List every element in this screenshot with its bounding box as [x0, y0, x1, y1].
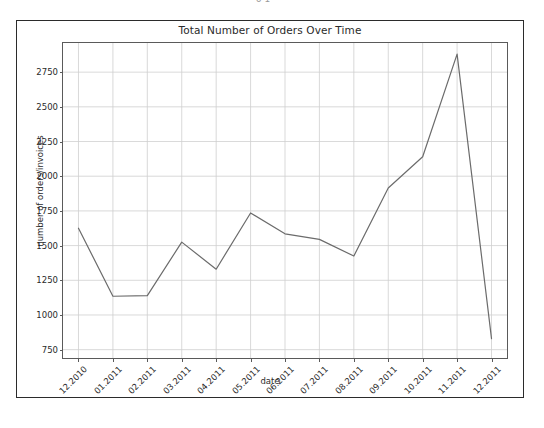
- x-tick-mark: [113, 358, 114, 362]
- x-tick-mark: [388, 358, 389, 362]
- y-tick-label: 2750: [36, 67, 58, 77]
- x-tick-mark: [182, 358, 183, 362]
- y-tick-mark: [60, 72, 64, 73]
- y-tick-mark: [60, 211, 64, 212]
- x-tick-mark: [147, 358, 148, 362]
- y-tick-mark: [60, 142, 64, 143]
- y-tick-label: 1750: [36, 206, 58, 216]
- plot-area: 75010001250150017502000225025002750 12.2…: [62, 42, 508, 359]
- x-tick-mark: [285, 358, 286, 362]
- x-tick-mark: [492, 358, 493, 362]
- x-axis-label: date: [17, 376, 523, 386]
- y-tick-mark: [60, 107, 64, 108]
- y-tick-label: 1000: [36, 310, 58, 320]
- x-tick-mark: [78, 358, 79, 362]
- line-chart-svg: [63, 43, 507, 358]
- top-clipped-text: 6 1: [243, 0, 283, 4]
- y-tick-label: 2500: [36, 102, 58, 112]
- y-tick-mark: [60, 315, 64, 316]
- y-tick-label: 750: [42, 345, 58, 355]
- y-tick-label: 1250: [36, 275, 58, 285]
- chart-title: Total Number of Orders Over Time: [17, 24, 523, 36]
- y-tick-mark: [60, 176, 64, 177]
- y-tick-label: 2000: [36, 171, 58, 181]
- x-tick-mark: [251, 358, 252, 362]
- gridlines: [63, 43, 507, 358]
- y-tick-label: 2250: [36, 137, 58, 147]
- y-tick-mark: [60, 350, 64, 351]
- y-tick-mark: [60, 280, 64, 281]
- chart-figure-frame: Total Number of Orders Over Time number …: [16, 20, 524, 398]
- x-tick-mark: [423, 358, 424, 362]
- x-tick-mark: [457, 358, 458, 362]
- x-tick-mark: [354, 358, 355, 362]
- x-tick-mark: [216, 358, 217, 362]
- y-tick-label: 1500: [36, 241, 58, 251]
- x-tick-mark: [319, 358, 320, 362]
- y-tick-mark: [60, 246, 64, 247]
